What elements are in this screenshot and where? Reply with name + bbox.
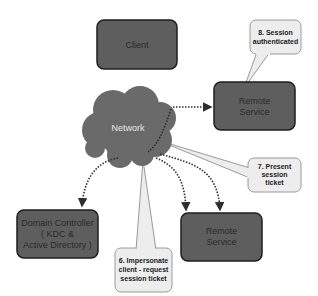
diagram-canvas: Client 8. Session authenticated Remote S… — [0, 0, 318, 296]
remote-service-bottom-line2: Service — [206, 237, 236, 247]
callout-step7-line3: ticket — [265, 179, 284, 186]
callout-step6-line2: client - request — [119, 266, 169, 274]
callout-step7-line2: session — [261, 171, 287, 178]
callout-step8-line1: 8. Session — [258, 29, 293, 36]
remote-service-top-line1: Remote — [239, 96, 271, 106]
client-node: Client — [97, 20, 177, 69]
domain-controller-node: Domain Controller ( KDC & Active Directo… — [17, 210, 98, 258]
callout-step6: 6. Impersonate client - request session … — [115, 246, 172, 292]
callout-step6-line1: 6. Impersonate — [119, 257, 169, 265]
network-cloud: Network — [82, 86, 176, 168]
client-label: Client — [125, 40, 149, 50]
remote-service-top-line2: Service — [239, 107, 269, 117]
callout-step8: 8. Session authenticated — [244, 20, 301, 88]
remote-service-bottom-line1: Remote — [206, 226, 238, 236]
remote-service-top-node: Remote Service — [214, 82, 295, 130]
network-label: Network — [111, 123, 145, 133]
edge-network-to-remote-bottom-1 — [156, 158, 186, 210]
domain-controller-line2: ( KDC & — [41, 229, 74, 239]
callout-step6-line3: session ticket — [120, 275, 167, 282]
callout-step7-line1: 7. Present — [258, 163, 292, 170]
remote-service-bottom-node: Remote Service — [181, 213, 262, 261]
callout-step7: 7. Present session ticket — [247, 158, 301, 192]
domain-controller-line3: Active Directory ) — [23, 240, 92, 250]
callout-step6-tail — [136, 160, 156, 250]
domain-controller-line1: Domain Controller — [21, 218, 94, 228]
callout-step8-line2: authenticated — [253, 38, 299, 45]
